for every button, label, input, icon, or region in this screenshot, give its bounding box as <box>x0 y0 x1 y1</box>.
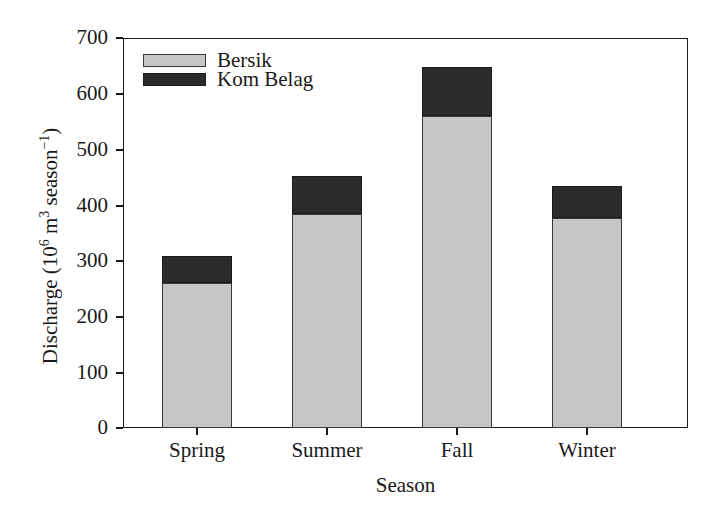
ytick-mark-400 <box>116 205 123 207</box>
ytick-mark-0 <box>116 427 123 429</box>
ytick-label-700: 700 <box>48 27 108 48</box>
y-axis-title-mid: m <box>38 218 62 240</box>
bar-segment-fall-kom-belag <box>422 67 492 116</box>
xtick-mark-fall <box>456 428 458 435</box>
bar-fall[interactable] <box>422 67 492 428</box>
xtick-mark-summer <box>326 428 328 435</box>
y-axis-title-prefix: Discharge (10 <box>38 246 62 364</box>
chart-figure: 700 600 500 400 300 200 100 0 Spring Sum… <box>0 0 723 514</box>
legend: Bersik Kom Belag <box>143 51 313 89</box>
ytick-mark-600 <box>116 93 123 95</box>
ytick-mark-300 <box>116 260 123 262</box>
y-axis-title-suffix: ) <box>38 128 62 135</box>
bar-spring[interactable] <box>162 256 232 428</box>
bar-winter[interactable] <box>552 186 622 428</box>
legend-swatch-kom-belag-icon <box>143 73 206 86</box>
xtick-label-winter: Winter <box>527 440 647 461</box>
legend-label-kom-belag: Kom Belag <box>217 69 313 90</box>
ytick-mark-200 <box>116 316 123 318</box>
legend-item-kom-belag[interactable]: Kom Belag <box>143 70 313 89</box>
y-axis-title-sup-minus1: −1 <box>37 135 52 150</box>
xtick-label-summer: Summer <box>267 440 387 461</box>
bar-segment-summer-bersik <box>292 214 362 428</box>
bar-segment-spring-kom-belag <box>162 256 232 283</box>
bar-segment-winter-bersik <box>552 218 622 428</box>
legend-swatch-bersik-icon <box>143 54 206 67</box>
ytick-mark-100 <box>116 372 123 374</box>
bar-segment-winter-kom-belag <box>552 186 622 218</box>
y-axis-title-sup-6: 6 <box>37 239 52 246</box>
y-axis-title: Discharge (106 m3 season−1) <box>37 51 63 441</box>
xtick-label-fall: Fall <box>397 440 517 461</box>
xtick-mark-winter <box>586 428 588 435</box>
xtick-label-spring: Spring <box>137 440 257 461</box>
x-axis-title: Season <box>123 473 688 498</box>
ytick-mark-700 <box>116 37 123 39</box>
bar-segment-summer-kom-belag <box>292 176 362 214</box>
bar-summer[interactable] <box>292 176 362 428</box>
bar-segment-fall-bersik <box>422 116 492 428</box>
ytick-mark-500 <box>116 149 123 151</box>
bar-segment-spring-bersik <box>162 283 232 428</box>
y-axis-title-sup-3: 3 <box>37 211 52 218</box>
y-axis-title-mid2: season <box>38 150 62 211</box>
xtick-mark-spring <box>196 428 198 435</box>
